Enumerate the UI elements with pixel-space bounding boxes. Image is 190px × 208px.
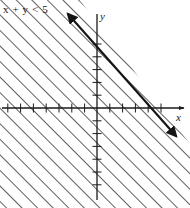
coordinate-plane-svg	[0, 0, 190, 208]
inequality-annotation: x + y < 5	[3, 3, 48, 15]
y-axis-label: y	[100, 11, 105, 22]
x-axis-label: x	[176, 112, 181, 123]
inequality-graph-figure: x + y < 5 y x	[0, 0, 190, 208]
